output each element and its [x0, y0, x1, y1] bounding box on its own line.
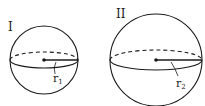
sphere-two-label: II: [116, 7, 126, 21]
sphere-two-radius-label: r2: [176, 77, 186, 91]
sphere-one-center: [42, 58, 46, 62]
sphere-two-center: [154, 58, 158, 62]
sphere-one-radius-label: r1: [53, 72, 63, 86]
spheres-diagram: I r1 II r2: [0, 0, 205, 106]
sphere-one-label: I: [8, 20, 13, 34]
